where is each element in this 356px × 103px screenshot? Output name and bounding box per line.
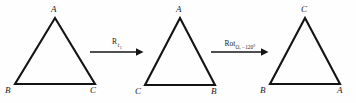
triangle-3-bottom-right-label: A: [337, 86, 343, 95]
triangle-3-shape: [0, 0, 356, 103]
triangle-3-apex-label: C: [301, 5, 307, 14]
triangle-3-bottom-left-label: B: [260, 86, 266, 95]
transformation-figure: A B C Rℓ1 A C B RotO, −120° C B A: [0, 0, 356, 103]
triangle-3-group: C B A: [0, 0, 356, 103]
